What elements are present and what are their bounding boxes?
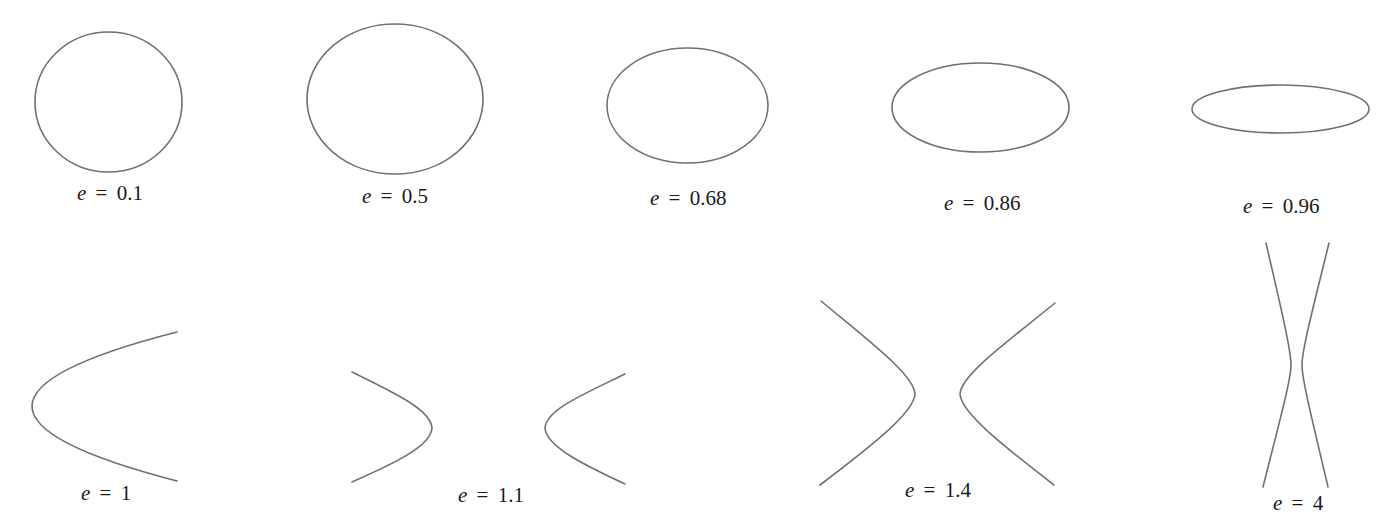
circle-curve bbox=[35, 32, 182, 172]
eccentricity-label: e = 0.68 bbox=[650, 186, 726, 210]
conic-e-0-68: e = 0.68 bbox=[607, 48, 768, 210]
eccentricity-label: e = 0.5 bbox=[362, 184, 428, 208]
hyperbola-right-branch bbox=[545, 374, 625, 484]
eccentricity-label: e = 1 bbox=[81, 481, 131, 505]
eccentricity-label: e = 0.1 bbox=[77, 181, 143, 205]
conic-e-1-4: e = 1.4 bbox=[820, 301, 1055, 502]
hyperbola-left-branch bbox=[820, 301, 915, 485]
ellipse-curve bbox=[892, 63, 1069, 152]
conic-e-1: e = 1 bbox=[32, 332, 177, 505]
conic-e-1-1: e = 1.1 bbox=[352, 372, 625, 507]
ellipse-curve bbox=[1192, 85, 1369, 133]
ellipse-curve bbox=[607, 48, 768, 163]
conic-e-0-96: e = 0.96 bbox=[1192, 85, 1369, 218]
conic-sections-figure: e = 0.1 e = 0.5 e = 0.68 e = 0.86 e bbox=[0, 0, 1395, 524]
conic-e-4: e = 4 bbox=[1263, 243, 1329, 515]
eccentricity-label: e = 1.1 bbox=[458, 483, 524, 507]
parabola-curve bbox=[32, 332, 177, 481]
eccentricity-label: e = 1.4 bbox=[905, 478, 971, 502]
hyperbola-right-branch bbox=[960, 303, 1055, 485]
eccentricity-label: e = 0.96 bbox=[1243, 194, 1319, 218]
eccentricity-label: e = 4 bbox=[1273, 491, 1324, 515]
hyperbola-left-branch bbox=[352, 372, 432, 482]
ellipse-curve bbox=[307, 24, 483, 174]
hyperbola-right-branch bbox=[1302, 243, 1329, 487]
conic-e-0-1: e = 0.1 bbox=[35, 32, 182, 205]
conic-e-0-5: e = 0.5 bbox=[307, 24, 483, 208]
eccentricity-label: e = 0.86 bbox=[944, 191, 1020, 215]
hyperbola-left-branch bbox=[1263, 243, 1291, 487]
conic-e-0-86: e = 0.86 bbox=[892, 63, 1069, 215]
